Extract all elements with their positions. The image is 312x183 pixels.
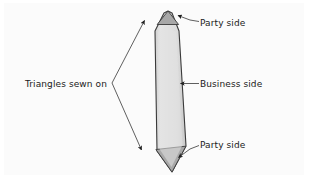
leader-triangles-top — [112, 21, 145, 84]
leader-party-side-top — [178, 16, 199, 22]
necktie-shape — [155, 11, 186, 172]
label-business-side: Business side — [200, 79, 262, 90]
top-triangle-party-side — [157, 11, 178, 25]
necktie-diagram-graphic — [0, 0, 312, 183]
label-party-side-bottom: Party side — [200, 140, 245, 151]
diagram-canvas: Party side Business side Party side Tria… — [0, 0, 312, 183]
label-triangles-sewn-on: Triangles sewn on — [25, 79, 107, 90]
leader-triangles-bottom — [112, 83, 142, 150]
label-party-side-top: Party side — [200, 18, 245, 29]
